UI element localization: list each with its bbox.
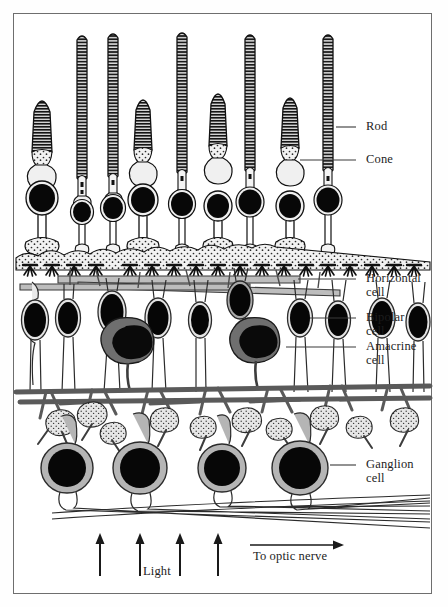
cone-cell [203, 94, 233, 256]
rod-cell [101, 34, 126, 256]
figure-canvas: Rod Cone Horizontal cell Bipolar cell Am… [0, 0, 448, 607]
label-horizontal-cell: Horizontal cell [366, 272, 421, 299]
amacrine-terminal [46, 402, 419, 444]
bipolar-cell [56, 284, 81, 392]
amacrine-cell [101, 318, 154, 391]
rod-cell [71, 36, 94, 256]
bipolar-cell [22, 282, 49, 392]
rod-cell [314, 35, 342, 256]
rod-cell [236, 35, 264, 256]
bipolar-cell [326, 280, 351, 392]
label-amacrine-cell: Amacrine cell [366, 340, 416, 367]
label-rod: Rod [366, 120, 387, 134]
light-arrow [176, 533, 185, 576]
bipolar-cell [189, 280, 212, 392]
label-optic-nerve: To optic nerve [253, 550, 327, 564]
label-bipolar-cell: Bipolar cell [366, 311, 405, 338]
amacrine-cell [230, 318, 280, 390]
light-arrow [214, 533, 223, 576]
label-light: Light [143, 565, 171, 579]
light-arrow [96, 533, 105, 576]
bipolar-cell [288, 280, 313, 392]
horizontal-cell [20, 276, 340, 296]
rod-cell [169, 33, 196, 256]
cone-cell [127, 100, 159, 256]
label-cone: Cone [366, 153, 393, 167]
retina-diagram-artwork [0, 0, 448, 607]
cone-cell [275, 98, 305, 256]
photoreceptor-layer [25, 33, 342, 256]
cone-cell [25, 101, 59, 256]
label-ganglion-cell: Ganglion cell [366, 458, 414, 485]
